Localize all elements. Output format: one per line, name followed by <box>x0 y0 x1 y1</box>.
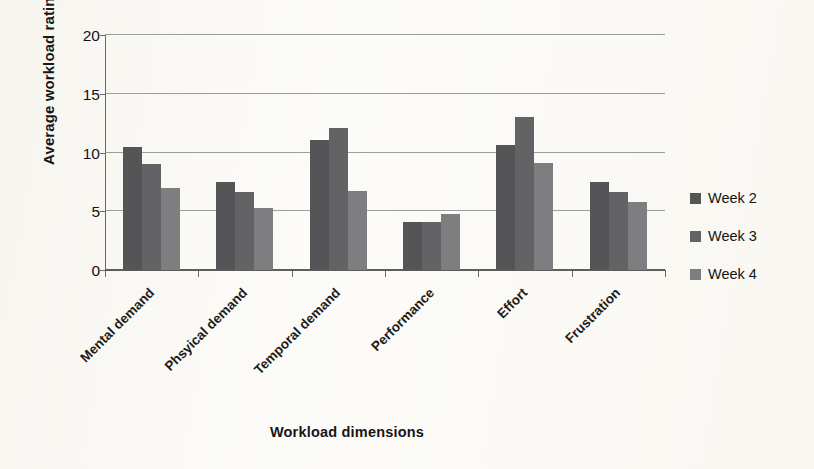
x-tick-mark-3 <box>385 271 386 277</box>
legend-item[interactable]: Week 4 <box>690 266 802 282</box>
x-category-label: Frustration <box>472 285 624 437</box>
bar[interactable] <box>628 202 647 270</box>
legend-label: Week 3 <box>708 228 757 244</box>
y-axis-tick-marks <box>0 35 111 271</box>
grouped-bar-chart: Average workload rating 05101520 Mental … <box>0 0 814 469</box>
bar[interactable] <box>515 117 534 270</box>
legend-label: Week 4 <box>708 266 757 282</box>
bar[interactable] <box>441 214 460 270</box>
chart-legend: Week 2Week 3Week 4 <box>690 190 802 304</box>
legend-label: Week 2 <box>708 190 757 206</box>
x-tick-mark-1 <box>198 271 199 277</box>
x-category-label: Mental demand <box>5 285 157 437</box>
bar[interactable] <box>403 222 422 270</box>
bar[interactable] <box>161 188 180 270</box>
x-tick-mark-0 <box>105 271 106 277</box>
x-tick-mark-4 <box>478 271 479 277</box>
x-axis-title: Workload dimensions <box>0 424 814 440</box>
bar[interactable] <box>590 182 609 270</box>
bar[interactable] <box>496 145 515 270</box>
x-category-label: Effort <box>378 285 530 437</box>
bar[interactable] <box>310 140 329 270</box>
bar-group <box>572 35 665 270</box>
bar[interactable] <box>235 192 254 270</box>
bar[interactable] <box>216 182 235 270</box>
bar[interactable] <box>123 147 142 270</box>
bar-group <box>385 35 478 270</box>
bar[interactable] <box>422 222 441 270</box>
legend-item[interactable]: Week 3 <box>690 228 802 244</box>
bar-group <box>292 35 385 270</box>
bar[interactable] <box>348 191 367 270</box>
bar[interactable] <box>254 208 273 270</box>
plot-area <box>105 35 665 270</box>
bar-group <box>198 35 291 270</box>
legend-swatch-week-2 <box>690 193 701 204</box>
legend-swatch-week-4 <box>690 269 701 280</box>
legend-swatch-week-3 <box>690 231 701 242</box>
bar-group <box>105 35 198 270</box>
bar[interactable] <box>329 128 348 270</box>
x-category-label: Performance <box>285 285 437 437</box>
legend-item[interactable]: Week 2 <box>690 190 802 206</box>
x-tick-mark-5 <box>572 271 573 277</box>
bar[interactable] <box>142 164 161 270</box>
x-tick-mark-6 <box>665 271 666 277</box>
x-category-label: Phsyical demand <box>98 285 250 437</box>
x-category-label: Temporal demand <box>192 285 344 437</box>
bar[interactable] <box>534 163 553 270</box>
bar-group <box>478 35 571 270</box>
x-tick-mark-2 <box>292 271 293 277</box>
bars-layer <box>105 35 665 270</box>
bar[interactable] <box>609 192 628 270</box>
